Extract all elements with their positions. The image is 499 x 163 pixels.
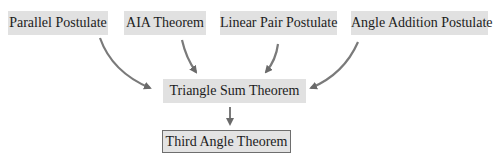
arrow-angle-addition-to-triangle-sum <box>311 42 358 88</box>
node-label: Parallel Postulate <box>9 15 107 30</box>
node-third-angle-theorem: Third Angle Theorem <box>162 130 291 153</box>
node-label: Triangle Sum Theorem <box>170 83 300 98</box>
node-label: Third Angle Theorem <box>166 134 288 149</box>
arrow-linear-pair-to-triangle-sum <box>266 44 278 72</box>
arrow-parallel-to-triangle-sum <box>100 38 150 88</box>
node-linear-pair-postulate: Linear Pair Postulate <box>220 11 337 35</box>
node-triangle-sum-theorem: Triangle Sum Theorem <box>163 79 306 103</box>
node-angle-addition-postulate: Angle Addition Postulate <box>351 11 488 35</box>
arrow-aia-to-triangle-sum <box>182 40 196 72</box>
node-label: Linear Pair Postulate <box>220 15 337 30</box>
node-parallel-postulate: Parallel Postulate <box>8 11 108 35</box>
node-aia-theorem: AIA Theorem <box>124 11 206 35</box>
node-label: AIA Theorem <box>126 15 204 30</box>
node-label: Angle Addition Postulate <box>351 15 493 30</box>
